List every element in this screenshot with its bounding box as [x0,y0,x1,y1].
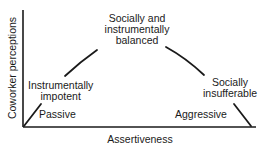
region-label-line: balanced [100,35,174,46]
region-label-line: insufferable [203,88,257,99]
x-axis-label: Assertiveness [107,133,172,145]
endpoint-label-passive: Passive [39,109,76,120]
curve-segment-rising [65,50,97,76]
curve-segment-aggressive [234,104,251,126]
region-label-socially-instrumentally-balanced: Socially and instrumentally balanced [100,13,174,46]
curve-segment-falling [166,47,204,75]
region-label-line: impotent [28,91,93,102]
region-label-instrumentally-impotent: Instrumentally impotent [28,80,93,102]
region-label-socially-insufferable: Socially insufferable [203,77,257,99]
y-axis-label: Coworker perceptions [6,17,18,119]
endpoint-label-aggressive: Aggressive [175,109,227,120]
assertiveness-curve-diagram: Coworker perceptions Assertiveness Instr… [0,0,270,150]
